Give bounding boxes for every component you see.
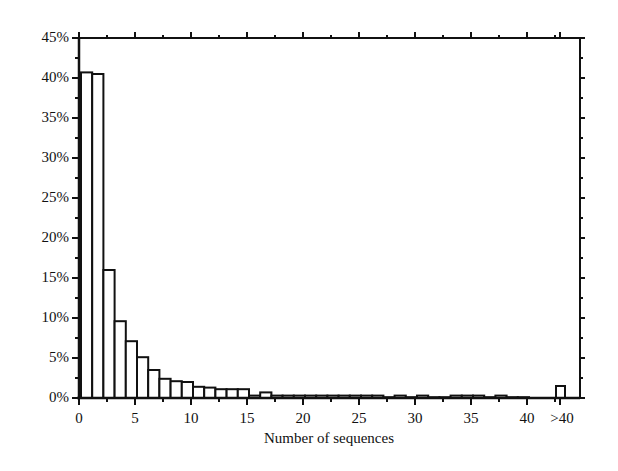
- y-tick-label: 20%: [9, 229, 69, 246]
- x-tick-label: 25: [339, 410, 379, 427]
- bar-series: [81, 72, 565, 398]
- histogram-chart: [0, 0, 618, 471]
- histogram-bar: [137, 357, 148, 398]
- histogram-bar: [227, 389, 238, 398]
- x-tick-label: >40: [542, 410, 582, 427]
- axis-ticks: [72, 32, 585, 405]
- histogram-bar: [103, 270, 114, 398]
- histogram-bar: [115, 321, 126, 398]
- y-tick-label: 0%: [9, 389, 69, 406]
- y-tick-label: 40%: [9, 69, 69, 86]
- y-tick-label: 45%: [9, 29, 69, 46]
- x-tick-label: 5: [115, 410, 155, 427]
- histogram-bar: [204, 388, 215, 398]
- y-tick-label: 30%: [9, 149, 69, 166]
- x-tick-label: 20: [283, 410, 323, 427]
- histogram-bar: [92, 74, 103, 398]
- histogram-bar: [193, 387, 204, 398]
- x-tick-label: 30: [395, 410, 435, 427]
- histogram-bar: [171, 381, 182, 398]
- histogram-bar: [159, 379, 170, 398]
- y-tick-label: 25%: [9, 189, 69, 206]
- plot-frame: [77, 38, 580, 398]
- histogram-bar: [182, 382, 193, 398]
- histogram-bar: [215, 389, 226, 398]
- histogram-bar: [238, 389, 249, 398]
- histogram-bar: [81, 72, 92, 398]
- x-tick-label: 40: [507, 410, 547, 427]
- x-tick-label: 0: [59, 410, 99, 427]
- x-tick-label: 35: [451, 410, 491, 427]
- y-tick-label: 10%: [9, 309, 69, 326]
- x-tick-label: 15: [227, 410, 267, 427]
- x-tick-label: 10: [171, 410, 211, 427]
- y-tick-label: 35%: [9, 109, 69, 126]
- x-axis-title: Number of sequences: [179, 430, 479, 447]
- histogram-bar: [556, 386, 565, 398]
- y-tick-label: 5%: [9, 349, 69, 366]
- histogram-bar: [148, 370, 159, 398]
- y-tick-label: 15%: [9, 269, 69, 286]
- histogram-bar: [126, 341, 137, 398]
